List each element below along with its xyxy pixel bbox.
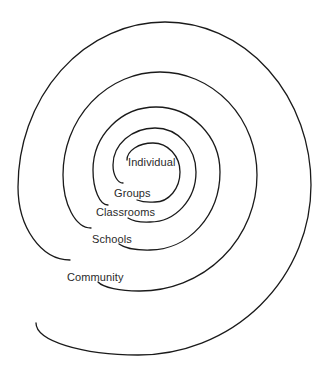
spiral-diagram xyxy=(0,0,323,374)
spiral-ring-schools xyxy=(63,72,257,291)
label-groups: Groups xyxy=(114,188,151,199)
label-individual: Individual xyxy=(128,157,175,168)
label-schools: Schools xyxy=(92,234,132,245)
label-community: Community xyxy=(67,272,124,283)
label-classrooms: Classrooms xyxy=(96,207,155,218)
